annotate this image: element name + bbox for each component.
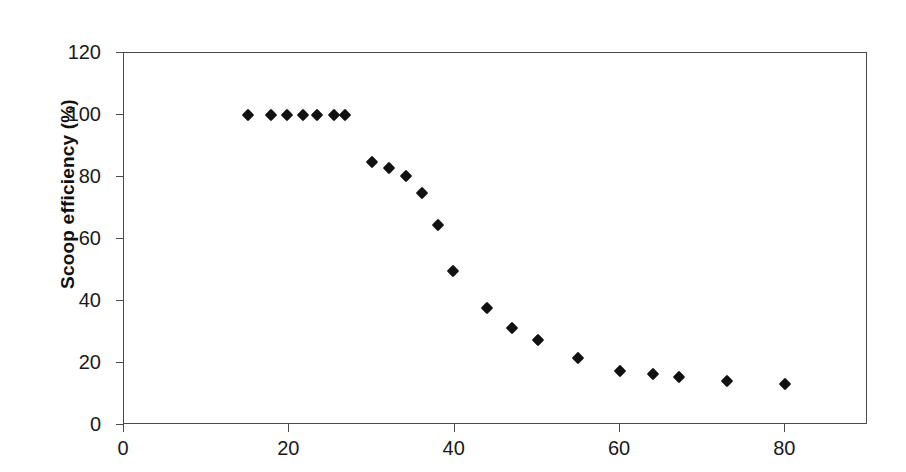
y-tick-label: 20 bbox=[0, 351, 113, 374]
data-point-marker bbox=[779, 378, 792, 391]
plot-area bbox=[123, 52, 867, 424]
scatter-chart-figure: Scoop efficiency (%) 020406080100120 020… bbox=[0, 0, 906, 472]
x-tick-mark bbox=[619, 424, 620, 432]
data-point-marker bbox=[481, 302, 494, 315]
data-point-marker bbox=[672, 371, 685, 384]
data-point-marker bbox=[338, 109, 351, 122]
data-point-marker bbox=[432, 218, 445, 231]
y-tick-label: 60 bbox=[0, 227, 113, 250]
data-point-marker bbox=[311, 109, 324, 122]
x-tick-mark bbox=[454, 424, 455, 432]
x-tick-mark bbox=[784, 424, 785, 432]
y-tick-label: 40 bbox=[0, 289, 113, 312]
x-tick-label: 80 bbox=[773, 437, 795, 460]
data-point-marker bbox=[366, 156, 379, 169]
data-point-marker bbox=[296, 109, 309, 122]
y-tick-label: 80 bbox=[0, 165, 113, 188]
x-tick-mark bbox=[123, 424, 124, 432]
x-tick-mark bbox=[288, 424, 289, 432]
y-tick-label: 100 bbox=[0, 103, 113, 126]
data-point-marker bbox=[505, 321, 518, 334]
x-tick-label: 60 bbox=[608, 437, 630, 460]
x-tick-label: 0 bbox=[117, 437, 128, 460]
data-point-marker bbox=[382, 162, 395, 175]
data-point-marker bbox=[447, 264, 460, 277]
data-point-marker bbox=[571, 352, 584, 365]
data-point-marker bbox=[400, 170, 413, 183]
data-point-marker bbox=[415, 187, 428, 200]
y-tick-label: 0 bbox=[0, 413, 113, 436]
y-tick-label: 120 bbox=[0, 41, 113, 64]
data-point-marker bbox=[614, 365, 627, 378]
data-points-layer bbox=[124, 53, 866, 423]
data-point-marker bbox=[242, 109, 255, 122]
data-point-marker bbox=[532, 333, 545, 346]
x-tick-label: 40 bbox=[443, 437, 465, 460]
x-tick-label: 20 bbox=[277, 437, 299, 460]
data-point-marker bbox=[647, 368, 660, 381]
data-point-marker bbox=[720, 375, 733, 388]
data-point-marker bbox=[280, 109, 293, 122]
data-point-marker bbox=[265, 109, 278, 122]
